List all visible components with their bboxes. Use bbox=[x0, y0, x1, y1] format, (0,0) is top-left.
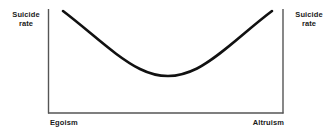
suicide-rate-curve-figure: Suicide rate Suicide rate Egoism Altruis… bbox=[0, 0, 333, 140]
right-y-axis-label: Suicide rate bbox=[289, 10, 329, 28]
left-y-axis-label-line2: rate bbox=[8, 19, 44, 28]
x-axis-start-label: Egoism bbox=[50, 118, 78, 127]
left-y-axis-label-line1: Suicide bbox=[8, 10, 44, 19]
right-y-axis-label-line1: Suicide bbox=[289, 10, 329, 19]
suicide-rate-curve bbox=[63, 11, 272, 76]
x-axis-end-label: Altruism bbox=[243, 118, 284, 127]
left-y-axis-label: Suicide rate bbox=[8, 10, 44, 28]
right-y-axis-label-line2: rate bbox=[289, 19, 329, 28]
